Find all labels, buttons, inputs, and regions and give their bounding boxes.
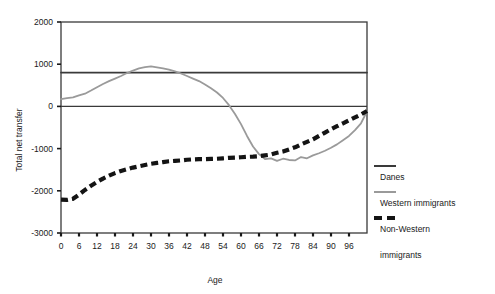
x-tick-label: 30 bbox=[146, 241, 156, 251]
x-tick-label: 78 bbox=[290, 241, 300, 251]
x-tick-label: 84 bbox=[308, 241, 318, 251]
y-tick-label: -1000 bbox=[31, 144, 53, 154]
x-tick-label: 24 bbox=[128, 241, 138, 251]
x-tick-label: 48 bbox=[200, 241, 210, 251]
y-tick-label: 1000 bbox=[34, 59, 53, 69]
y-tick-label: -3000 bbox=[31, 228, 53, 238]
y-tick-label: 2000 bbox=[34, 17, 53, 27]
legend-label: Non-Western bbox=[380, 224, 430, 234]
legend-label: immigrants bbox=[380, 250, 422, 260]
x-tick-label: 42 bbox=[182, 241, 192, 251]
x-tick-label: 66 bbox=[254, 241, 264, 251]
x-tick-label: 96 bbox=[344, 241, 354, 251]
x-tick-label: 60 bbox=[236, 241, 246, 251]
chart-figure: 200010000-1000-2000-3000 061218243036424… bbox=[0, 0, 495, 294]
x-tick-label: 36 bbox=[164, 241, 174, 251]
y-tick-label: 0 bbox=[48, 101, 53, 111]
x-axis-title: Age bbox=[207, 275, 222, 285]
legend-label: Western immigrants bbox=[380, 198, 455, 208]
x-tick-label: 54 bbox=[218, 241, 228, 251]
x-tick-label: 0 bbox=[59, 241, 64, 251]
y-axis-title: Total net transfer bbox=[14, 108, 24, 171]
y-tick-label: -2000 bbox=[31, 186, 53, 196]
legend-label: Danes bbox=[380, 172, 405, 182]
x-tick-label: 18 bbox=[110, 241, 120, 251]
x-tick-label: 6 bbox=[77, 241, 82, 251]
x-tick-label: 90 bbox=[326, 241, 336, 251]
x-tick-label: 72 bbox=[272, 241, 282, 251]
x-tick-label: 12 bbox=[92, 241, 102, 251]
